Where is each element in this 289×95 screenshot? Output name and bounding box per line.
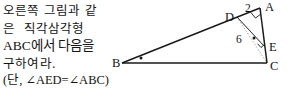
right-angle-at-E-icon bbox=[258, 44, 265, 48]
vertex-label-A: A bbox=[265, 0, 274, 14]
angle-AEC-dot-icon bbox=[253, 37, 256, 40]
vertex-label-C: C bbox=[270, 59, 278, 73]
vertex-label-E: E bbox=[269, 40, 277, 54]
right-angle-at-A-icon bbox=[251, 13, 261, 19]
length-label-DA: 2 bbox=[245, 2, 251, 14]
triangle-diagram: A B C D E 2 6 bbox=[108, 0, 289, 80]
angle-B-dot-icon bbox=[140, 57, 143, 60]
vertex-label-B: B bbox=[112, 56, 120, 70]
length-label-DE: 6 bbox=[236, 33, 242, 45]
segment-AC bbox=[260, 8, 267, 63]
vertex-label-D: D bbox=[225, 10, 234, 24]
triangle-ABC-outline bbox=[122, 8, 267, 63]
geometry-problem-figure: 오른쪽 그림과 같 은 직각삼각형 ABC에서 다음을 구하여라. (단, ∠A… bbox=[0, 0, 289, 95]
